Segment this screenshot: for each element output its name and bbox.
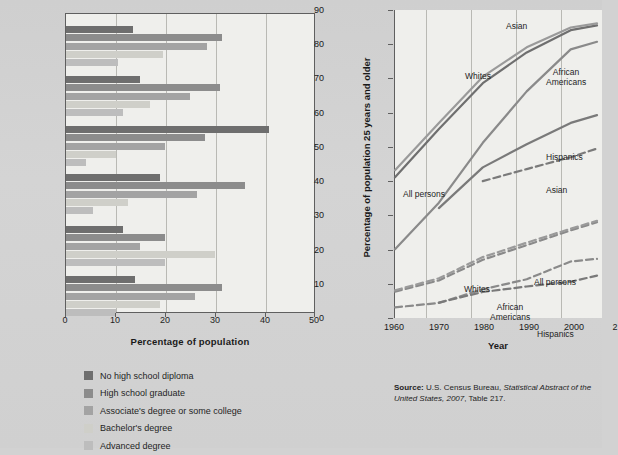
legend-item: High school graduate bbox=[84, 386, 242, 401]
line-ytick: 50 bbox=[302, 142, 324, 152]
line-ytick: 0 bbox=[302, 313, 324, 323]
bar-all-women-3 bbox=[66, 51, 163, 58]
series-label-asian-hs: Asian bbox=[506, 22, 527, 32]
legend-swatch-icon bbox=[84, 389, 93, 398]
line-xtick: 2 bbox=[612, 322, 617, 332]
legend-label: Advanced degree bbox=[100, 441, 171, 451]
line-chart-x-axis-title: Year bbox=[394, 340, 602, 351]
legend-swatch-icon bbox=[84, 441, 93, 450]
legend-item: No high school diploma bbox=[84, 368, 242, 383]
series-label-all-persons-ba: All persons bbox=[534, 278, 576, 288]
series-label-african-americans-hs: African Americans bbox=[546, 68, 586, 87]
bar-all-men-1 bbox=[66, 84, 220, 91]
bar-asians-2 bbox=[66, 243, 140, 250]
source-text-a: U.S. Census Bureau, bbox=[424, 383, 504, 392]
bar-whites-2 bbox=[66, 293, 195, 300]
bar-chart-figure: All women All men Hispanics African Amer… bbox=[0, 0, 330, 448]
bar-chart-x-axis-title: Percentage of population bbox=[65, 336, 315, 347]
series-label-hispanics-hs: Hispanics bbox=[546, 153, 583, 163]
bar-whites-3 bbox=[66, 301, 160, 308]
bar-hispanics-0 bbox=[66, 126, 269, 133]
line-chart-figure: 0102030405060708090 1960 1970 1980 1990 … bbox=[330, 0, 602, 448]
line-ytick: 10 bbox=[302, 279, 324, 289]
bar-xtick: 10 bbox=[110, 315, 120, 325]
bar-hispanics-4 bbox=[66, 159, 86, 166]
bar-asians-1 bbox=[66, 234, 165, 241]
bar-hispanics-2 bbox=[66, 143, 165, 150]
series-label-asian-ba: Asian bbox=[546, 186, 567, 196]
bar-all-women-1 bbox=[66, 34, 222, 41]
line-chart-plot-area bbox=[394, 10, 602, 318]
line-ytick: 30 bbox=[302, 210, 324, 220]
legend-item: Associate's degree or some college bbox=[84, 403, 242, 418]
line-series-layer bbox=[395, 10, 603, 318]
bar-all-men-0 bbox=[66, 76, 140, 83]
bar-hispanics-3 bbox=[66, 151, 116, 158]
line-whites-high-school-graduate-or-more bbox=[395, 23, 597, 170]
line-xtick: 1980 bbox=[474, 322, 494, 332]
bar-african-americans-4 bbox=[66, 207, 93, 214]
series-label-all-persons-hs: All persons bbox=[403, 190, 445, 200]
legend-swatch-icon bbox=[84, 371, 93, 380]
bar-whites-1 bbox=[66, 284, 222, 291]
bar-african-americans-3 bbox=[66, 199, 128, 206]
source-label: Source: bbox=[394, 383, 424, 392]
bar-all-men-4 bbox=[66, 109, 123, 116]
line-ytick: 60 bbox=[302, 108, 324, 118]
series-label-african-americans-ba: African Americans bbox=[490, 303, 530, 322]
line-ytick: 20 bbox=[302, 245, 324, 255]
bar-all-women-2 bbox=[66, 43, 207, 50]
series-label-hispanics-ba: Hispanics bbox=[537, 330, 574, 340]
series-label-whites-hs: Whites bbox=[465, 72, 491, 82]
bar-all-men-3 bbox=[66, 101, 150, 108]
legend-label: No high school diploma bbox=[100, 371, 194, 381]
bar-chart-legend: No high school diplomaHigh school gradua… bbox=[84, 368, 242, 455]
line-xtick: 1960 bbox=[384, 322, 404, 332]
bar-hispanics-1 bbox=[66, 134, 205, 141]
bar-xtick: 20 bbox=[160, 315, 170, 325]
bar-xtick: 40 bbox=[260, 315, 270, 325]
legend-swatch-icon bbox=[84, 406, 93, 415]
legend-swatch-icon bbox=[84, 424, 93, 433]
line-ytick: 90 bbox=[302, 5, 324, 15]
bar-xtick: 30 bbox=[210, 315, 220, 325]
bar-african-americans-1 bbox=[66, 182, 245, 189]
line-ytick: 80 bbox=[302, 39, 324, 49]
bar-all-women-4 bbox=[66, 59, 118, 66]
bar-asians-3 bbox=[66, 251, 215, 258]
bar-asians-0 bbox=[66, 226, 123, 233]
legend-label: Bachelor's degree bbox=[100, 423, 172, 433]
series-label-whites-ba: Whites bbox=[464, 285, 490, 295]
bar-series-layer bbox=[66, 14, 314, 312]
line-xtick: 1970 bbox=[429, 322, 449, 332]
legend-item: Bachelor's degree bbox=[84, 421, 242, 436]
bar-whites-4 bbox=[66, 309, 116, 316]
bar-african-americans-0 bbox=[66, 174, 160, 181]
source-note: Source: U.S. Census Bureau, Statistical … bbox=[394, 382, 602, 404]
source-text-b: , Table 217. bbox=[464, 394, 505, 403]
bar-xtick: 0 bbox=[62, 315, 67, 325]
line-xtick: 1990 bbox=[519, 322, 539, 332]
line-ytick: 70 bbox=[302, 73, 324, 83]
bar-all-men-2 bbox=[66, 93, 190, 100]
line-ytick: 40 bbox=[302, 176, 324, 186]
bar-all-women-0 bbox=[66, 26, 133, 33]
bar-african-americans-2 bbox=[66, 191, 197, 198]
bar-asians-4 bbox=[66, 259, 165, 266]
line-chart-y-axis-title: Percentage of population 25 years and ol… bbox=[361, 18, 372, 298]
legend-label: Associate's degree or some college bbox=[100, 406, 242, 416]
legend-label: High school graduate bbox=[100, 388, 185, 398]
bar-whites-0 bbox=[66, 276, 135, 283]
legend-item: Advanced degree bbox=[84, 438, 242, 453]
